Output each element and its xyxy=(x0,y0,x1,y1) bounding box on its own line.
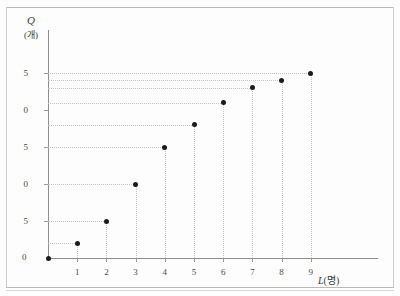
horizontal-leader-line xyxy=(48,147,165,148)
horizontal-leader-line xyxy=(48,80,282,81)
data-point xyxy=(104,219,109,224)
x-tick xyxy=(77,258,78,262)
origin-label: 0 xyxy=(22,252,27,262)
x-tick xyxy=(311,258,312,262)
horizontal-leader-line xyxy=(48,88,252,89)
origin-point xyxy=(46,256,51,261)
horizontal-leader-line xyxy=(48,125,194,126)
x-axis-title: L(명) xyxy=(318,272,339,287)
y-axis-unit: (개) xyxy=(14,28,48,41)
y-axis-title: Q (개) xyxy=(14,14,48,41)
vertical-leader-line xyxy=(223,103,224,258)
x-tick-label: 3 xyxy=(128,268,144,277)
vertical-leader-line xyxy=(194,125,195,258)
x-axis-line xyxy=(48,258,378,259)
y-tick-label: 0 xyxy=(2,180,28,189)
x-tick xyxy=(136,258,137,262)
x-tick-label: 1 xyxy=(69,268,85,277)
data-point xyxy=(192,122,197,127)
data-point xyxy=(308,71,313,76)
vertical-leader-line xyxy=(136,184,137,258)
x-tick-label: 9 xyxy=(303,268,319,277)
x-tick-label: 8 xyxy=(274,268,290,277)
y-axis-symbol: Q xyxy=(14,14,48,26)
y-tick-label: 5 xyxy=(2,69,28,78)
x-tick-label: 7 xyxy=(244,268,260,277)
horizontal-leader-line xyxy=(48,243,77,244)
x-tick-label: 6 xyxy=(215,268,231,277)
horizontal-leader-line xyxy=(48,73,311,74)
vertical-leader-line xyxy=(165,147,166,258)
y-tick xyxy=(44,110,49,111)
x-tick xyxy=(194,258,195,262)
x-tick-label: 4 xyxy=(157,268,173,277)
vertical-leader-line xyxy=(282,80,283,258)
x-tick-label: 2 xyxy=(98,268,114,277)
horizontal-leader-line xyxy=(48,103,223,104)
vertical-leader-line xyxy=(311,73,312,258)
y-tick-label: 5 xyxy=(2,143,28,152)
scatter-plot: Q (개) L(명) 0 50505123456789 xyxy=(0,0,400,296)
x-tick xyxy=(252,258,253,262)
vertical-leader-line xyxy=(106,221,107,258)
x-tick xyxy=(106,258,107,262)
vertical-leader-line xyxy=(252,88,253,258)
x-tick xyxy=(165,258,166,262)
horizontal-leader-line xyxy=(48,221,106,222)
x-axis-unit: (명) xyxy=(324,275,340,286)
data-point xyxy=(221,100,226,105)
scanned-page: Q (개) L(명) 0 50505123456789 xyxy=(0,0,400,296)
y-tick-label: 0 xyxy=(2,106,28,115)
y-tick-label: 5 xyxy=(2,217,28,226)
data-point xyxy=(133,182,138,187)
data-point xyxy=(279,78,284,83)
x-tick xyxy=(282,258,283,262)
horizontal-leader-line xyxy=(48,184,136,185)
data-point xyxy=(250,85,255,90)
x-tick xyxy=(223,258,224,262)
x-tick-label: 5 xyxy=(186,268,202,277)
y-axis-line xyxy=(48,30,49,259)
data-point xyxy=(75,241,80,246)
data-point xyxy=(162,145,167,150)
